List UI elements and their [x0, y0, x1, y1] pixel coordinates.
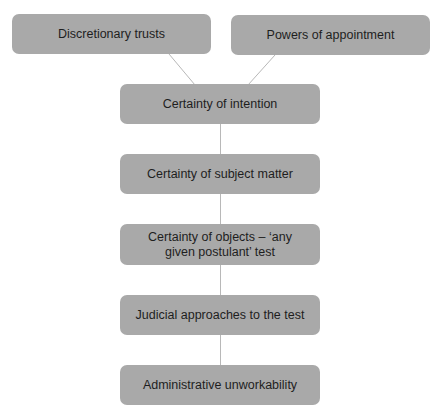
node-certainty-of-subject-matter: Certainty of subject matter: [120, 154, 320, 194]
node-label: Powers of appointment: [267, 28, 395, 43]
node-certainty-of-intention: Certainty of intention: [120, 84, 320, 124]
edge-powers-of-appointment-to-certainty-of-intention: [248, 55, 275, 85]
node-label: Administrative unworkability: [143, 378, 297, 393]
connector-layer: [0, 0, 440, 415]
node-judicial-approaches: Judicial approaches to the test: [120, 295, 320, 335]
node-discretionary-trusts: Discretionary trusts: [12, 14, 211, 54]
node-label: Discretionary trusts: [58, 27, 165, 42]
node-label: Certainty of objects – ‘any given postul…: [142, 230, 298, 260]
node-certainty-of-objects: Certainty of objects – ‘any given postul…: [120, 224, 320, 265]
node-administrative-unworkability: Administrative unworkability: [120, 365, 320, 405]
edge-discretionary-trusts-to-certainty-of-intention: [169, 54, 195, 85]
node-label: Certainty of intention: [163, 97, 278, 112]
node-label: Judicial approaches to the test: [136, 308, 305, 323]
node-label: Certainty of subject matter: [147, 167, 293, 182]
node-powers-of-appointment: Powers of appointment: [231, 15, 430, 55]
